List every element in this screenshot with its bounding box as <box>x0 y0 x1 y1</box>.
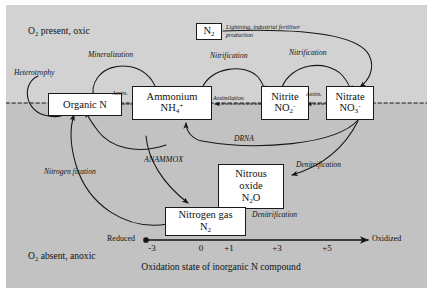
label-nitrification-right: Nitrification <box>289 48 327 57</box>
diagram-artwork <box>6 5 427 288</box>
box-dinitrogen[interactable]: N2 <box>196 23 222 40</box>
label-nitrogen-fixation: Nitrogen fixation <box>44 167 96 176</box>
label-lightning-industrial: Lightning, industrial fertiliser product… <box>226 23 304 40</box>
oxic-zone-label: O₂ present, oxic <box>28 25 90 36</box>
axis-title: Oxidation state of inorganic N compound <box>141 261 300 272</box>
box-nitrite-line2: NO2- <box>274 102 295 115</box>
label-heterotrophy: Heterotrophy <box>14 68 54 77</box>
axis-label-oxidized: Oxidized <box>372 234 401 243</box>
box-ammonium-line2: NH4+ <box>161 102 184 115</box>
label-assim-organic: Assim. <box>112 90 128 96</box>
axis-tick-3: +3 <box>272 243 282 253</box>
arrow-drna <box>186 120 358 146</box>
box-nitrogen-gas-line2: N2 <box>200 221 211 234</box>
box-ammonium-line1: Ammonium <box>147 91 198 103</box>
axis-tick-0: -3 <box>148 243 156 253</box>
box-nitrite-line1: Nitrite <box>271 91 298 103</box>
axis-label-reduced: Reduced <box>107 234 135 243</box>
nitrogen-cycle-figure: O₂ present, oxic O₂ absent, anoxic Organ… <box>0 0 433 294</box>
box-nitrous-oxide-line3: N2O <box>242 192 261 205</box>
label-denitrification-upper: Denitrification <box>296 160 341 169</box>
box-nitrate-line1: Nitrate <box>335 91 364 103</box>
label-mineralization-top: Mineralization <box>88 50 133 59</box>
box-dinitrogen-line1: N2 <box>203 25 214 38</box>
box-nitrate[interactable]: Nitrate NO3- <box>326 86 374 120</box>
label-assim-nitrate: Assim. <box>306 91 322 97</box>
box-nitrogen-gas[interactable]: Nitrogen gas N2 <box>165 207 246 236</box>
box-organic-n[interactable]: Organic N <box>48 93 122 116</box>
label-assimilation: Assimilation <box>213 94 244 101</box>
box-nitrogen-gas-line1: Nitrogen gas <box>179 209 233 221</box>
box-nitrite[interactable]: Nitrite NO2- <box>261 86 309 120</box>
figure-frame: O₂ present, oxic O₂ absent, anoxic Organ… <box>6 5 427 288</box>
label-drna: DRNA <box>234 134 254 143</box>
label-denitrification-lower: Denitrification <box>252 210 297 219</box>
label-anammox: ANAMMOX <box>144 155 183 164</box>
anoxic-zone-label: O₂ absent, anoxic <box>28 250 96 261</box>
box-nitrous-oxide-line1: Nitrous <box>235 168 267 180</box>
arrow-anammox <box>146 136 188 203</box>
box-nitrate-line2: NO3- <box>339 102 360 115</box>
label-nitrification-left: Nitrification <box>210 51 248 60</box>
axis-tick-1: 0 <box>199 243 204 253</box>
box-nitrous-oxide[interactable]: Nitrous oxide N2O <box>218 164 284 209</box>
box-organic-n-line1: Organic N <box>63 99 107 111</box>
box-ammonium[interactable]: Ammonium NH4+ <box>132 86 212 120</box>
box-nitrous-oxide-line2: oxide <box>239 180 262 192</box>
axis-tick-4: +5 <box>322 243 332 253</box>
axis-tick-2: +1 <box>224 243 234 253</box>
